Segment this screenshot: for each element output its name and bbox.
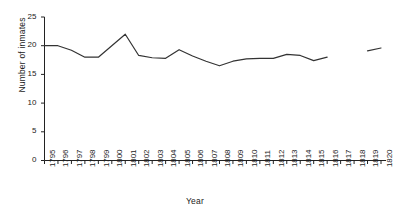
x-tick-label: 1814 (304, 149, 313, 166)
x-tick-label: 1796 (61, 149, 70, 166)
y-axis-ticks (41, 17, 45, 161)
x-tick-label: 1812 (277, 149, 286, 166)
x-tick-label: 1807 (210, 149, 219, 166)
x-tick-label: 1815 (317, 149, 326, 166)
y-tick-label: 0 (19, 155, 37, 164)
x-tick-label: 1811 (263, 150, 272, 167)
x-tick-label: 1803 (156, 149, 165, 166)
y-tick-label: 15 (19, 69, 37, 78)
y-tick-label: 5 (19, 126, 37, 135)
x-tick-label: 1795 (48, 149, 57, 166)
x-tick-label: 1820 (385, 149, 394, 166)
x-tick-label: 1800 (115, 149, 124, 166)
x-tick-label: 1799 (102, 149, 111, 166)
x-tick-label: 1818 (358, 149, 367, 166)
x-tick-label: 1816 (331, 149, 340, 166)
y-tick-label: 10 (19, 98, 37, 107)
x-tick-label: 1804 (169, 149, 178, 166)
x-tick-label: 1813 (290, 149, 299, 166)
x-tick-label: 1819 (371, 149, 380, 166)
x-tick-label: 1798 (88, 149, 97, 166)
x-tick-label: 1805 (183, 149, 192, 166)
x-tick-label: 1802 (142, 149, 151, 166)
y-tick-label: 25 (19, 12, 37, 21)
x-tick-label: 1797 (75, 149, 84, 166)
x-tick-label: 1806 (196, 149, 205, 166)
series-line (45, 34, 328, 66)
data-series (45, 34, 382, 66)
x-tick-label: 1810 (250, 149, 259, 166)
series-line (368, 48, 381, 51)
x-tick-label: 1809 (236, 149, 245, 166)
axis-lines (45, 17, 387, 161)
x-tick-label: 1801 (129, 149, 138, 166)
x-tick-label: 1817 (344, 149, 353, 166)
x-tick-label: 1808 (223, 149, 232, 166)
y-tick-label: 20 (19, 40, 37, 49)
